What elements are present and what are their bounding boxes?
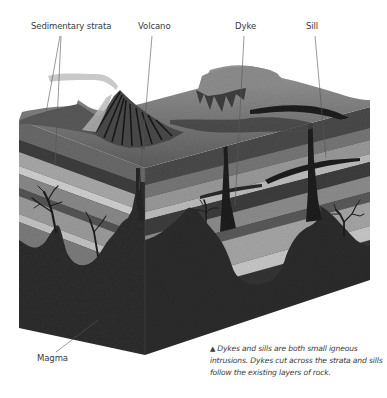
geology-block-diagram — [0, 0, 387, 398]
label-dyke: Dyke — [235, 21, 256, 31]
label-magma: Magma — [37, 353, 68, 363]
caption-triangle-icon: ▲ — [210, 345, 215, 353]
caption-text: Dykes and sills are both small igneous i… — [210, 344, 382, 377]
label-sill: Sill — [306, 21, 318, 31]
label-volcano: Volcano — [138, 21, 171, 31]
label-sedimentary-strata: Sedimentary strata — [31, 21, 111, 31]
figure-caption: ▲Dykes and sills are both small igneous … — [210, 343, 387, 379]
